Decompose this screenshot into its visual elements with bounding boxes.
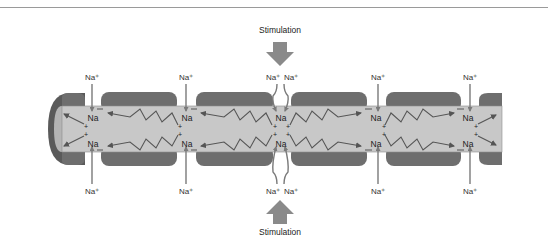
plus-charge: + bbox=[273, 123, 277, 130]
plus-charge: + bbox=[178, 123, 182, 130]
na-inside-label: Na bbox=[276, 113, 287, 123]
na-inside-label: Na bbox=[371, 113, 382, 123]
na-plus-label: Na⁺ bbox=[179, 187, 193, 196]
plus-charge: + bbox=[474, 131, 478, 138]
plus-charge: + bbox=[382, 123, 386, 130]
na-plus-label: Na⁺ bbox=[266, 187, 280, 196]
na-inside-label: Na bbox=[371, 139, 382, 149]
stimulation-label-bottom: Stimulation bbox=[259, 227, 301, 237]
plus-charge: + bbox=[474, 123, 478, 130]
na-plus-label: Na⁺ bbox=[284, 73, 298, 82]
na-plus-label: Na⁺ bbox=[85, 73, 99, 82]
na-inside-label: Na bbox=[88, 139, 99, 149]
na-inside-label: Na bbox=[182, 113, 193, 123]
na-inside-label: Na bbox=[182, 139, 193, 149]
na-plus-label: Na⁺ bbox=[284, 187, 298, 196]
na-plus-label: Na⁺ bbox=[266, 73, 280, 82]
na-plus-labels-bottom: Na⁺ Na⁺ Na⁺ Na⁺ Na⁺ Na⁺ bbox=[85, 187, 477, 196]
plus-charge: + bbox=[286, 123, 290, 130]
na-plus-label: Na⁺ bbox=[371, 187, 385, 196]
plus-charge: + bbox=[178, 131, 182, 138]
na-plus-label: Na⁺ bbox=[85, 187, 99, 196]
na-inside-label: Na bbox=[463, 113, 474, 123]
na-plus-label: Na⁺ bbox=[179, 73, 193, 82]
stimulation-arrow-bottom bbox=[266, 200, 294, 224]
plus-charge: + bbox=[382, 131, 386, 138]
na-inside-label: Na bbox=[276, 139, 287, 149]
plus-charge: + bbox=[286, 131, 290, 138]
plus-charge: + bbox=[273, 131, 277, 138]
stimulation-arrow-top bbox=[266, 42, 294, 66]
plus-charge: + bbox=[84, 123, 88, 130]
na-plus-labels-top: Na⁺ Na⁺ Na⁺ Na⁺ Na⁺ Na⁺ bbox=[85, 73, 477, 82]
na-plus-label: Na⁺ bbox=[463, 187, 477, 196]
na-plus-label: Na⁺ bbox=[463, 73, 477, 82]
na-inside-label: Na bbox=[88, 113, 99, 123]
na-inside-label: Na bbox=[463, 139, 474, 149]
na-plus-label: Na⁺ bbox=[371, 73, 385, 82]
saltatory-conduction-diagram: Stimulation Stimulation Na⁺ Na⁺ Na⁺ Na⁺ … bbox=[0, 0, 548, 242]
stimulation-label-top: Stimulation bbox=[259, 25, 301, 35]
plus-charge: + bbox=[84, 131, 88, 138]
